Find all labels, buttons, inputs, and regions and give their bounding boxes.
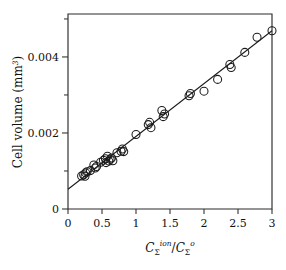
axes-box — [68, 14, 272, 209]
svg-text:CΣion/CΣo: CΣion/CΣo — [145, 239, 195, 257]
data-point — [214, 75, 222, 83]
chart-figure: 00.511.522.53 00.0020.004 CΣion/CΣo Cell… — [0, 0, 286, 270]
data-point — [186, 89, 194, 97]
x-tick-label-4: 2 — [201, 217, 208, 230]
x-tick-label-3: 1.5 — [161, 217, 179, 230]
x-axis-title: CΣion/CΣo — [145, 239, 195, 257]
y-axis-tick-labels: 00.0020.004 — [28, 51, 60, 216]
data-point — [200, 87, 208, 95]
data-point — [227, 64, 235, 72]
y-tick-label-2: 0.004 — [28, 51, 60, 64]
plot-frame — [68, 14, 272, 209]
x-tick-label-5: 2.5 — [229, 217, 247, 230]
x-tick-label-6: 3 — [269, 217, 276, 230]
x-tick-label-0: 0 — [65, 217, 72, 230]
svg-text:Cell volume (mm3): Cell volume (mm3) — [11, 56, 25, 169]
y-tick-label-0: 0 — [52, 203, 59, 216]
x-axis-tick-labels: 00.511.522.53 — [65, 217, 276, 230]
data-point-markers — [78, 27, 276, 181]
data-point — [253, 33, 261, 41]
y-axis-ticks — [62, 19, 68, 209]
data-point — [146, 118, 154, 126]
y-axis-title: Cell volume (mm3) — [11, 56, 25, 169]
y-tick-label-1: 0.002 — [28, 127, 60, 140]
x-axis-ticks — [68, 209, 272, 214]
scatter-plot: 00.511.522.53 00.0020.004 CΣion/CΣo Cell… — [0, 0, 286, 270]
x-tick-label-2: 1 — [133, 217, 140, 230]
x-tick-label-1: 0.5 — [93, 217, 111, 230]
